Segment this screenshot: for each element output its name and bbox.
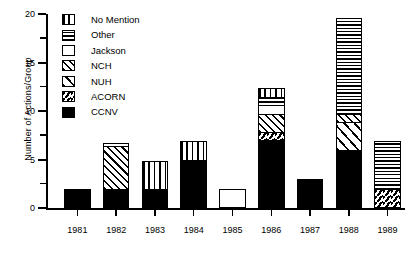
- chart-legend: No MentionOtherJacksonNCHNUHACORNCCNV: [62, 12, 140, 120]
- legend-item: CCNV: [62, 104, 140, 119]
- bar-1987: [297, 179, 324, 208]
- legend-item-label: No Mention: [91, 15, 140, 25]
- legend-item: NCH: [62, 58, 140, 73]
- x-tick: [309, 210, 311, 216]
- y-tick-major: [38, 62, 46, 64]
- bar-segment-no-mention: [142, 161, 169, 190]
- x-tick-label: 1983: [145, 226, 165, 235]
- y-tick-minor: [40, 134, 46, 136]
- legend-swatch-solid-black-icon: [62, 107, 75, 118]
- legend-swatch-diagonal-sparse-icon: [62, 76, 75, 87]
- legend-item: No Mention: [62, 12, 140, 27]
- y-tick-label: 15: [25, 58, 35, 67]
- bar-segment-ccnv: [336, 150, 363, 208]
- x-tick: [115, 210, 117, 216]
- bar-segment-ccnv: [142, 189, 169, 208]
- legend-swatch-diagonal-dense-icon: [62, 60, 75, 71]
- y-tick-label: 0: [30, 204, 35, 213]
- legend-item-label: Other: [91, 30, 115, 40]
- legend-item: Other: [62, 27, 140, 42]
- bar-1986: [258, 88, 285, 208]
- y-tick-label: 20: [25, 10, 35, 19]
- legend-item: ACORN: [62, 89, 140, 104]
- x-tick: [348, 210, 350, 216]
- legend-item: Jackson: [62, 43, 140, 58]
- y-tick-major: [38, 159, 46, 161]
- y-tick-minor: [40, 37, 46, 39]
- y-tick-label: 10: [25, 107, 35, 116]
- legend-item-label: NUH: [91, 77, 112, 87]
- x-tick: [387, 210, 389, 216]
- legend-item-label: ACORN: [91, 92, 125, 102]
- y-tick-minor: [40, 86, 46, 88]
- bar-1983: [142, 161, 169, 208]
- y-tick-major: [38, 110, 46, 112]
- bar-segment-ccnv: [103, 189, 130, 208]
- x-tick: [154, 210, 156, 216]
- x-tick-label: 1989: [378, 226, 398, 235]
- bar-1988: [336, 18, 363, 208]
- y-axis-line: [46, 14, 48, 210]
- x-tick: [77, 210, 79, 216]
- bar-1989: [374, 141, 401, 208]
- bar-segment-nuh: [336, 122, 363, 151]
- bar-segment-nch: [258, 114, 285, 133]
- bar-segment-ccnv: [64, 189, 91, 208]
- chart-container: Number of Actions/Group 05101520 1981198…: [0, 0, 411, 256]
- y-tick-major: [38, 207, 46, 209]
- bar-1985: [219, 189, 246, 208]
- x-tick-label: 1985: [222, 226, 242, 235]
- x-tick-label: 1988: [339, 226, 359, 235]
- legend-item-label: Jackson: [91, 46, 126, 56]
- bar-segment-acorn: [374, 189, 401, 208]
- bar-segment-ccnv: [297, 179, 324, 208]
- y-tick-label: 5: [30, 155, 35, 164]
- x-tick: [193, 210, 195, 216]
- x-tick: [271, 210, 273, 216]
- legend-item-label: CCNV: [91, 107, 118, 117]
- legend-swatch-vertical-lines-icon: [62, 14, 75, 25]
- bar-segment-other: [374, 141, 401, 190]
- bar-segment-other: [336, 18, 363, 115]
- x-tick-label: 1987: [300, 226, 320, 235]
- x-axis-line: [46, 208, 405, 210]
- legend-swatch-horizontal-lines-icon: [62, 30, 75, 41]
- bar-segment-nch: [103, 146, 130, 190]
- x-tick-label: 1984: [184, 226, 204, 235]
- bar-1984: [180, 141, 207, 208]
- legend-swatch-blank-white-icon: [62, 45, 75, 56]
- x-tick-label: 1986: [261, 226, 281, 235]
- x-tick: [232, 210, 234, 216]
- legend-item: NUH: [62, 74, 140, 89]
- bar-segment-ccnv: [258, 140, 285, 208]
- y-tick-minor: [40, 183, 46, 185]
- legend-item-label: NCH: [91, 61, 112, 71]
- bar-1981: [64, 189, 91, 208]
- y-tick-major: [38, 13, 46, 15]
- bar-segment-jackson: [219, 189, 246, 208]
- x-tick-label: 1982: [106, 226, 126, 235]
- bar-segment-ccnv: [180, 160, 207, 209]
- legend-swatch-diagonal-medium-icon: [62, 91, 75, 102]
- bar-segment-no-mention: [180, 141, 207, 160]
- bar-1982: [103, 143, 130, 208]
- x-tick-label: 1981: [67, 226, 87, 235]
